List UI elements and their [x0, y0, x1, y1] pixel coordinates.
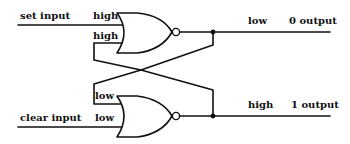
one-output-label: 1 output [291, 99, 339, 110]
one-output-state: high [248, 99, 274, 110]
set-input-state: high [93, 10, 119, 21]
latch-diagram: set input high high low 0 output low cle… [0, 0, 350, 144]
set-input-label: set input [20, 10, 70, 21]
top-nor-gate [117, 13, 172, 53]
zero-output-state: low [248, 15, 267, 26]
zero-output-label: 0 output [289, 15, 337, 26]
bottom-nor-gate [117, 96, 172, 137]
bottom-gate-input1-state: low [95, 90, 114, 101]
bottom-junction-dot [211, 114, 216, 119]
clear-input-label: clear input [20, 112, 82, 123]
clear-input-state: low [95, 112, 114, 123]
top-gate-input2-state: high [93, 30, 119, 41]
bottom-gate-inversion-bubble [172, 112, 179, 119]
top-gate-inversion-bubble [172, 28, 179, 35]
